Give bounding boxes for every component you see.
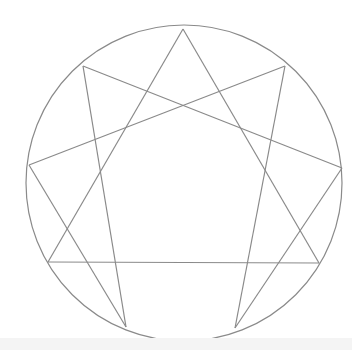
outer-circle (26, 25, 342, 341)
line-9-3 (183, 29, 319, 263)
line-4-2 (235, 168, 342, 328)
bottom-strip (0, 338, 352, 350)
enneagram-diagram (0, 0, 352, 350)
line-7-1 (29, 66, 285, 165)
line-5-7 (29, 165, 126, 327)
enneagram-svg (0, 0, 352, 350)
line-2-8 (83, 66, 342, 168)
line-6-9 (48, 29, 183, 262)
line-1-4 (235, 66, 285, 328)
line-8-5 (83, 66, 126, 327)
